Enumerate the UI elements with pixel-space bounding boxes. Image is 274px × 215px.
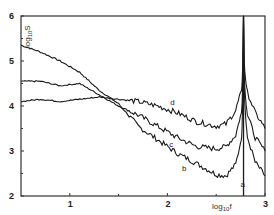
curve-b (21, 17, 265, 178)
curve-label-b: b (182, 164, 187, 173)
y-tick-label: 6 (9, 11, 14, 21)
y-axis-label: log10S (23, 25, 33, 48)
y-tick-label: 4 (9, 101, 14, 111)
curve-d (21, 16, 265, 129)
y-tick-label: 5 (9, 56, 14, 66)
spectrum-chart: 23456123 abcd log10S log10f (0, 0, 274, 215)
x-tick-label: 3 (263, 199, 268, 209)
plot-frame (21, 16, 265, 196)
axis-ticks: 23456123 (9, 11, 268, 209)
y-tick-label: 3 (9, 146, 14, 156)
x-tick-label: 2 (165, 199, 170, 209)
curve-label-d: d (170, 98, 174, 107)
curve-label-a: a (241, 180, 246, 189)
axes (21, 16, 265, 196)
x-axis-label: log10f (212, 202, 232, 212)
annotations: abcd (169, 98, 245, 189)
x-tick-label: 1 (68, 199, 73, 209)
y-tick-label: 2 (9, 191, 14, 201)
curve-c (21, 16, 265, 151)
curve-label-c: c (169, 140, 173, 149)
data-series (21, 16, 265, 196)
